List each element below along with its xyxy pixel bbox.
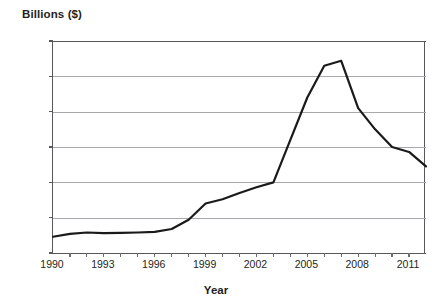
x-axis-tick: [408, 253, 409, 257]
series-polyline: [53, 61, 426, 237]
x-axis-tick: [391, 253, 392, 257]
x-axis-tick: [171, 253, 172, 257]
x-axis-tick: [307, 253, 308, 257]
line-chart: Billions ($) 3,0002,5002,0001,5001,00050…: [0, 0, 432, 306]
x-axis-tick: [103, 253, 104, 257]
x-axis-tick-label: 1996: [142, 258, 165, 270]
x-axis-tick-label: 1999: [193, 258, 216, 270]
x-axis-tick-label: 1990: [40, 258, 63, 270]
x-axis-tick: [222, 253, 223, 257]
y-axis-title: Billions ($): [22, 8, 82, 20]
x-axis-tick-label: 2011: [397, 258, 420, 270]
x-axis-tick: [290, 253, 291, 257]
x-axis-title: Year: [0, 284, 432, 296]
x-axis-tick-label: 2008: [345, 258, 368, 270]
plot-area: [52, 41, 425, 253]
x-axis-tick: [120, 253, 121, 257]
x-axis-tick: [324, 253, 325, 257]
x-axis-tick: [375, 253, 376, 257]
x-axis-tick: [137, 253, 138, 257]
x-axis-tick: [358, 253, 359, 257]
x-axis-tick: [239, 253, 240, 257]
x-axis-tick: [273, 253, 274, 257]
x-axis-tick: [69, 253, 70, 257]
x-axis-tick: [86, 253, 87, 257]
x-axis-tick: [188, 253, 189, 257]
x-axis-tick: [341, 253, 342, 257]
x-axis-tick: [205, 253, 206, 257]
data-line-series: [53, 41, 426, 253]
x-axis-tick-label: 2005: [295, 258, 318, 270]
x-axis-tick-label: 1993: [91, 258, 114, 270]
x-axis-tick: [154, 253, 155, 257]
x-axis-tick: [256, 253, 257, 257]
x-axis-tick-label: 2002: [244, 258, 267, 270]
